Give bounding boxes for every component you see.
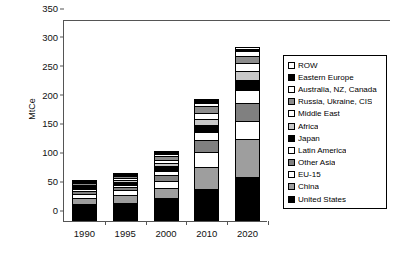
legend-item-label: Africa [298, 122, 318, 131]
bar-segment [194, 106, 219, 113]
legend-swatch-icon [288, 74, 295, 81]
legend-item-label: Middle East [298, 109, 340, 118]
bar-segment [235, 103, 260, 121]
y-tick-label: 150 [42, 118, 64, 129]
legend-swatch-icon [288, 110, 295, 117]
x-tick-mark [105, 221, 106, 225]
legend-swatch-icon [288, 159, 295, 166]
x-tick-label: 2000 [155, 221, 176, 239]
y-tick-label: 250 [42, 60, 64, 71]
y-tick-label: 100 [42, 147, 64, 158]
legend-item[interactable]: Australia, NZ, Canada [288, 83, 383, 95]
legend-item[interactable]: Africa [288, 120, 383, 132]
legend-item-label: Eastern Europe [298, 73, 354, 82]
legend-item[interactable]: Other Asia [288, 157, 383, 169]
bar-segment [235, 177, 260, 221]
chart-legend: ROWEastern EuropeAustralia, NZ, CanadaRu… [283, 55, 387, 209]
legend-swatch-icon [288, 183, 295, 190]
bar-segment [113, 203, 138, 221]
legend-item[interactable]: United States [288, 193, 383, 205]
bar-segment [235, 139, 260, 177]
bar-segment [154, 198, 179, 221]
stacked-bar-chart: MtCe 050100150200250300350 1990199520002… [0, 0, 410, 279]
x-tick-label: 2020 [237, 221, 258, 239]
legend-item-label: Other Asia [298, 158, 335, 167]
plot-area: 050100150200250300350 199019952000201020… [63, 20, 267, 222]
legend-item-label: Japan [298, 134, 320, 143]
x-tick-label: 1990 [74, 221, 95, 239]
legend-item[interactable]: Middle East [288, 108, 383, 120]
legend-item-label: Russia, Ukraine, CIS [298, 97, 372, 106]
bar-segment [194, 152, 219, 166]
legend-swatch-icon [288, 147, 295, 154]
bar-segment [235, 56, 260, 63]
bar-1995 [113, 173, 138, 221]
x-tick-mark [227, 221, 228, 225]
legend-item-label: ROW [298, 61, 318, 70]
legend-swatch-icon [288, 62, 295, 69]
y-tick-label: 50 [47, 176, 64, 187]
legend-item[interactable]: Latin America [288, 144, 383, 156]
bar-segment [194, 189, 219, 221]
y-tick-label: 0 [53, 205, 64, 216]
legend-swatch-icon [288, 123, 295, 130]
legend-swatch-icon [288, 86, 295, 93]
bar-segment [194, 140, 219, 152]
bar-2020 [235, 47, 260, 221]
bar-segment [194, 125, 219, 133]
bar-2000 [154, 151, 179, 221]
legend-item[interactable]: Eastern Europe [288, 71, 383, 83]
bar-segment [235, 80, 260, 90]
legend-swatch-icon [288, 196, 295, 203]
bar-2010 [194, 99, 219, 221]
bar-segment [194, 132, 219, 140]
bar-1990 [72, 180, 97, 221]
x-tick-mark [186, 221, 187, 225]
y-tick-label: 300 [42, 31, 64, 42]
y-axis-title: MtCe [27, 79, 37, 139]
bar-segment [154, 188, 179, 198]
legend-swatch-icon [288, 98, 295, 105]
y-tick-label: 200 [42, 89, 64, 100]
legend-item-label: EU-15 [298, 170, 321, 179]
bar-segment [72, 204, 97, 221]
legend-item[interactable]: ROW [288, 59, 383, 71]
bar-segment [235, 121, 260, 139]
bar-segment [194, 167, 219, 189]
bar-segment [235, 90, 260, 103]
bar-segment [235, 71, 260, 80]
bar-segment [154, 181, 179, 188]
legend-item[interactable]: Russia, Ukraine, CIS [288, 96, 383, 108]
y-tick-label: 350 [42, 3, 64, 14]
x-tick-mark [268, 221, 269, 225]
legend-item[interactable]: China [288, 181, 383, 193]
legend-swatch-icon [288, 135, 295, 142]
x-tick-mark [146, 221, 147, 225]
legend-item-label: United States [298, 195, 346, 204]
bar-segment [113, 195, 138, 203]
x-tick-label: 1995 [115, 221, 136, 239]
legend-item[interactable]: Japan [288, 132, 383, 144]
x-tick-label: 2010 [196, 221, 217, 239]
legend-item-label: China [298, 182, 319, 191]
legend-swatch-icon [288, 171, 295, 178]
bar-segment [235, 63, 260, 71]
legend-item-label: Australia, NZ, Canada [298, 85, 377, 94]
legend-item[interactable]: EU-15 [288, 169, 383, 181]
legend-item-label: Latin America [298, 146, 346, 155]
